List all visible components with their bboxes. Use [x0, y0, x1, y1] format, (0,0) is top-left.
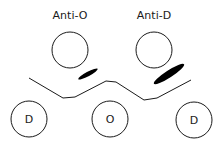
immunodiffusion-diagram: Anti-O Anti-D D O D [0, 0, 223, 142]
anti-o-well [52, 32, 88, 68]
antigen-d-label-left: D [25, 113, 33, 126]
antigen-d-label-right: D [190, 114, 198, 127]
anti-o-label: Anti-O [53, 9, 88, 22]
small-precipitin-arc [77, 67, 98, 81]
precipitin-line [29, 78, 191, 100]
anti-d-label: Anti-D [137, 9, 171, 22]
anti-d-well [136, 32, 172, 68]
antigen-o-label: O [106, 113, 115, 126]
antigen-row: D O D [11, 101, 212, 138]
antisera-row: Anti-O Anti-D [52, 9, 172, 68]
precipitin-arcs [77, 61, 186, 86]
